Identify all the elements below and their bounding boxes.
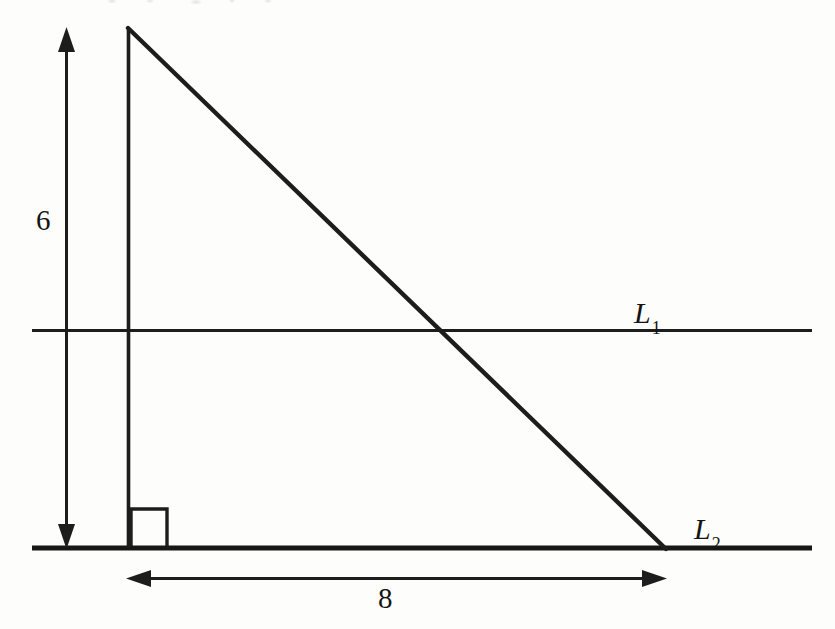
line-l1-label: L1 [634, 296, 660, 335]
vertical-dimension-label: 6 [36, 204, 51, 237]
arrowhead-up [58, 27, 75, 52]
line-l1-label-base: L [634, 296, 651, 329]
arrowhead-right [642, 570, 667, 587]
line-l1-label-subscript: 1 [652, 318, 661, 338]
triangle-hypotenuse [128, 28, 666, 549]
vertical-dimension-arrow [58, 27, 75, 549]
horizontal-dimension-label: 8 [378, 582, 393, 615]
line-l2-label-subscript: 2 [712, 534, 721, 554]
arrowhead-down [58, 524, 75, 549]
arrowhead-left [126, 570, 151, 587]
horizontal-dimension-arrow [126, 570, 667, 587]
line-l2-label-base: L [694, 512, 711, 545]
line-l2-label: L2 [694, 512, 720, 551]
geometry-diagram: 6 8 L1 L2 [0, 0, 835, 629]
right-angle-marker [131, 509, 167, 546]
